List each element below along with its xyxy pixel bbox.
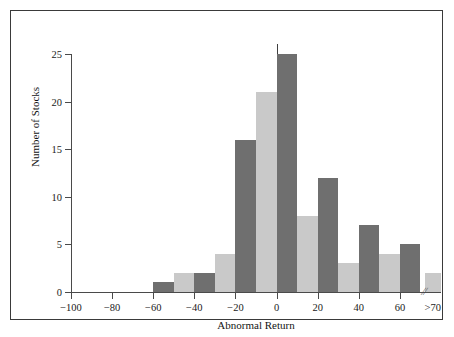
x-axis-label: Abnormal Return bbox=[71, 319, 441, 331]
x-tick-mark bbox=[318, 293, 319, 299]
histogram-bar bbox=[235, 140, 256, 292]
histogram-bar bbox=[153, 282, 174, 292]
x-tick-label: −40 bbox=[186, 302, 202, 313]
x-tick-label: 60 bbox=[395, 302, 406, 313]
histogram-bar bbox=[379, 254, 400, 292]
axis-top-stub bbox=[277, 44, 278, 54]
x-tick-mark bbox=[153, 293, 154, 299]
histogram-bar bbox=[256, 92, 277, 292]
x-tick-label: 20 bbox=[312, 302, 323, 313]
histogram-bar bbox=[425, 273, 441, 292]
histogram-bar bbox=[400, 244, 421, 292]
y-tick-label: 10 bbox=[52, 191, 63, 202]
x-tick-mark bbox=[277, 293, 278, 299]
histogram-bar bbox=[174, 273, 195, 292]
x-tick-mark bbox=[400, 293, 401, 299]
histogram-bar bbox=[297, 216, 318, 292]
plot-area: 0510152025 −100−80−60−40−200204060>70 //… bbox=[71, 41, 441, 293]
x-tick-mark bbox=[71, 293, 72, 299]
histogram-bar bbox=[338, 263, 359, 292]
x-tick-label: 0 bbox=[274, 302, 279, 313]
y-tick-label: 5 bbox=[57, 239, 62, 250]
x-tick-label: 40 bbox=[354, 302, 365, 313]
x-tick-label: −100 bbox=[60, 302, 82, 313]
histogram-bar bbox=[277, 54, 298, 292]
figure-frame: Number of Stocks 0510152025 −100−80−60−4… bbox=[10, 10, 443, 320]
x-tick-label: −20 bbox=[227, 302, 243, 313]
bar-series bbox=[71, 41, 441, 293]
histogram-figure: Number of Stocks 0510152025 −100−80−60−4… bbox=[0, 0, 454, 337]
y-tick-label: 15 bbox=[52, 144, 63, 155]
histogram-bar bbox=[318, 178, 339, 292]
x-tick-mark bbox=[359, 293, 360, 299]
x-tick-mark bbox=[194, 293, 195, 299]
y-axis-label: Number of Stocks bbox=[29, 87, 41, 167]
histogram-bar bbox=[359, 225, 380, 292]
histogram-bar bbox=[194, 273, 215, 292]
x-tick-label: −80 bbox=[104, 302, 120, 313]
x-tick-label: >70 bbox=[425, 302, 441, 313]
x-tick-mark bbox=[235, 293, 236, 299]
y-tick-label: 20 bbox=[52, 96, 63, 107]
histogram-bar bbox=[215, 254, 236, 292]
y-tick-label: 25 bbox=[52, 49, 63, 60]
y-tick-label: 0 bbox=[57, 287, 62, 298]
x-tick-mark bbox=[112, 293, 113, 299]
x-tick-label: −60 bbox=[145, 302, 161, 313]
